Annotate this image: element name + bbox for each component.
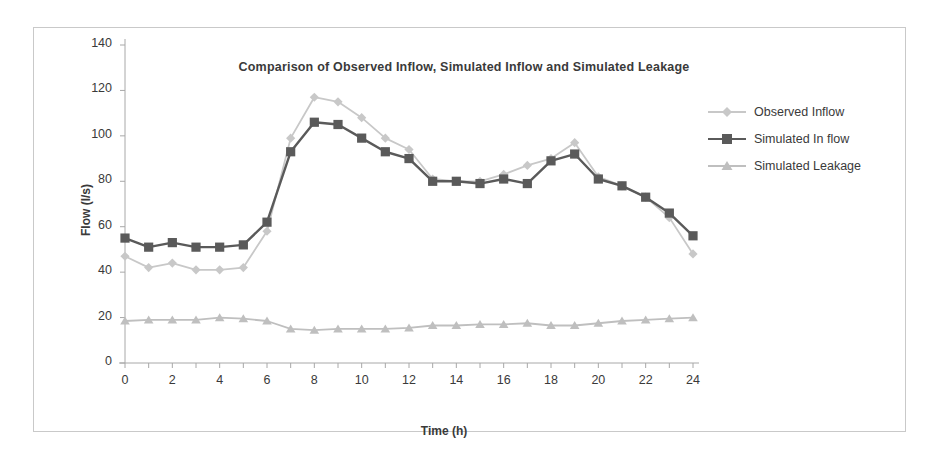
legend-label-observed-inflow: Observed Inflow xyxy=(754,105,844,119)
legend-swatch-diamond-icon xyxy=(706,104,748,120)
legend-swatch-triangle-icon xyxy=(706,158,748,174)
chart-legend: Observed Inflow Simulated In flow Simula… xyxy=(706,98,861,179)
legend-label-simulated-leakage: Simulated Leakage xyxy=(754,159,861,173)
legend-item-simulated-inflow: Simulated In flow xyxy=(706,125,861,152)
series-simulated-leakage xyxy=(120,313,698,333)
legend-item-observed-inflow: Observed Inflow xyxy=(706,98,861,125)
legend-swatch-square-icon xyxy=(706,131,748,147)
legend-label-simulated-inflow: Simulated In flow xyxy=(754,132,849,146)
series-simulated-in-flow xyxy=(120,118,697,252)
legend-item-simulated-leakage: Simulated Leakage xyxy=(706,152,861,179)
chart-frame: Comparison of Observed Inflow, Simulated… xyxy=(33,27,906,432)
plot-area xyxy=(34,28,907,433)
